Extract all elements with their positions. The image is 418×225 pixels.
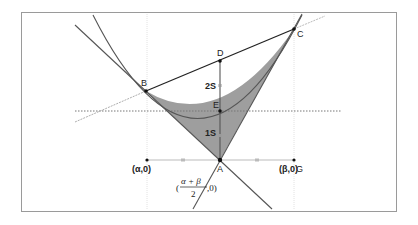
label-E: E [213,100,219,110]
label-2S: 2S [205,81,216,91]
tick-mark [181,159,185,162]
point-B [144,89,148,93]
point-G [292,158,295,161]
tick-mark [219,134,222,137]
label-beta-point: (β,0) [279,164,298,174]
point-alpha [145,158,148,161]
tick-mark [219,84,222,87]
label-midpoint-denominator: 2 [191,189,196,199]
label-midpoint-open: ( [176,183,179,193]
label-B: B [141,78,147,88]
label-1S: 1S [205,128,216,138]
tick-mark [255,159,259,162]
label-alpha-point: (α,0) [132,164,151,174]
label-C: C [297,29,304,39]
label-D: D [217,48,224,58]
parabola-diagram: B C D E A G (α,0) (β,0) 2S 1S ( α + β 2 … [0,0,418,225]
point-C [292,27,296,31]
point-D [218,59,222,63]
label-midpoint-close: ,0) [207,183,217,193]
point-A [218,158,222,162]
label-A: A [217,164,223,174]
label-midpoint-numerator: α + β [181,176,201,186]
